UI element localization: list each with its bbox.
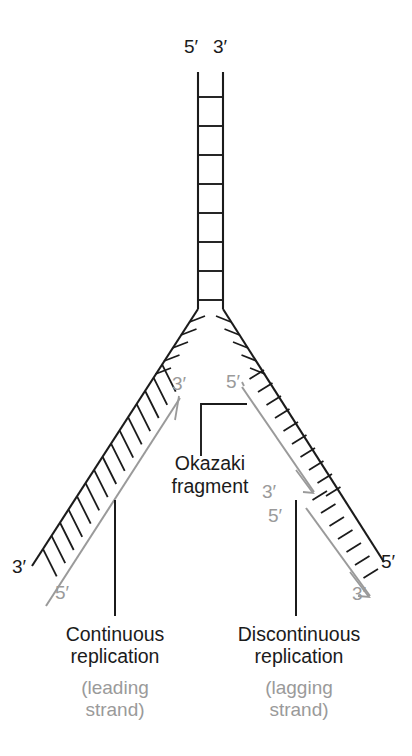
continuous-replication-caption: Continuous replication [26,623,204,668]
leading-template-3prime-label: 3′ [12,556,26,578]
okazaki-fragment-1-5prime-tick [242,382,244,386]
lagging-subcaption-line2: strand) [207,699,391,721]
replication-fork [32,309,384,566]
parent-duplex-left-end-label: 5′ [184,36,198,58]
discontinuous-caption-line1: Discontinuous [207,623,391,645]
okazaki-fragment-2-5prime-label: 5′ [268,505,282,527]
okazaki-fragment-1-3prime-arrow [296,470,313,493]
okazaki-leader-line [201,404,247,456]
okazaki-annotation-line2: fragment [146,475,274,498]
okazaki-annotation: Okazaki fragment [146,452,274,498]
leading-new-strand-3prime-label: 3′ [172,373,186,395]
continuous-caption-line1: Continuous [26,623,204,645]
leading-strand-subcaption: (leading strand) [26,677,204,721]
leading-new-strand-backbone [46,398,180,606]
leading-new-strand-3prime-tick [175,396,179,420]
parent-duplex-right-end-label: 3′ [213,36,227,58]
okazaki-fragment-2 [306,491,378,597]
okazaki-fragment-1-5prime-label: 5′ [226,371,240,393]
parent-duplex [198,72,223,309]
parent-rungs [198,97,223,300]
leading-subcaption-line1: (leading [26,677,204,699]
continuous-caption-line2: replication [26,645,204,667]
leading-new-strand-5prime-label: 5′ [55,582,69,604]
discontinuous-caption-line2: replication [207,645,391,667]
okazaki-fragment-2-rungs [313,491,379,578]
discontinuous-replication-caption: Discontinuous replication [207,623,391,668]
lagging-subcaption-line1: (lagging [207,677,391,699]
lagging-strand-subcaption: (lagging strand) [207,677,391,721]
leading-subcaption-line2: strand) [26,699,204,721]
okazaki-fragment-2-3prime-label: 3′ [352,583,366,605]
okazaki-annotation-line1: Okazaki [146,452,274,475]
lagging-template-5prime-label: 5′ [381,551,395,573]
